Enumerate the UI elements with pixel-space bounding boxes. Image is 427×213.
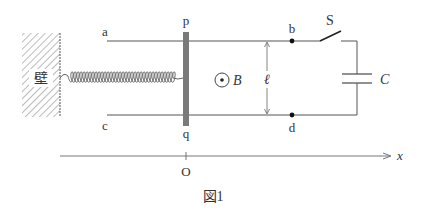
label-O: O <box>181 164 190 179</box>
label-q: q <box>183 126 190 141</box>
spring <box>60 72 183 83</box>
label-C: C <box>380 72 390 87</box>
wall-label: 壁 <box>34 71 48 86</box>
conducting-rod-pq <box>183 32 189 126</box>
wall: 壁 <box>22 33 60 117</box>
spring-coil <box>60 72 183 83</box>
label-B: B <box>233 73 242 88</box>
figure-caption: 図1 <box>203 189 224 204</box>
label-c: c <box>102 118 108 133</box>
label-x: x <box>396 148 403 163</box>
capacitor <box>342 74 372 83</box>
label-b: b <box>289 21 296 36</box>
diagram-canvas: 壁 a c p q B ℓ b d S C O x <box>0 0 427 213</box>
point-d <box>290 113 295 118</box>
switch-s <box>320 31 341 41</box>
magnetic-field-out-of-page-icon <box>215 73 229 87</box>
label-a: a <box>102 24 108 39</box>
label-p: p <box>183 13 190 28</box>
wire-switch-to-capacitor <box>341 41 357 74</box>
label-l: ℓ <box>264 72 270 87</box>
point-b <box>290 39 295 44</box>
label-S: S <box>326 13 334 28</box>
label-d: d <box>289 120 296 135</box>
